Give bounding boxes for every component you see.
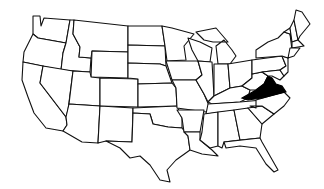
state-iowa [166, 61, 202, 80]
us-map [0, 0, 324, 189]
state-colorado [100, 78, 138, 107]
state-north-dakota [128, 26, 165, 46]
states [22, 10, 310, 182]
state-florida [224, 138, 278, 172]
state-arizona [63, 104, 100, 143]
state-wisconsin [188, 38, 212, 62]
state-kansas [138, 83, 177, 107]
state-new-york [256, 32, 292, 58]
state-minnesota [162, 26, 194, 61]
state-wyoming [91, 51, 128, 78]
state-new-mexico [98, 106, 133, 143]
state-massachusetts [292, 40, 304, 48]
state-connecticut [288, 48, 300, 58]
